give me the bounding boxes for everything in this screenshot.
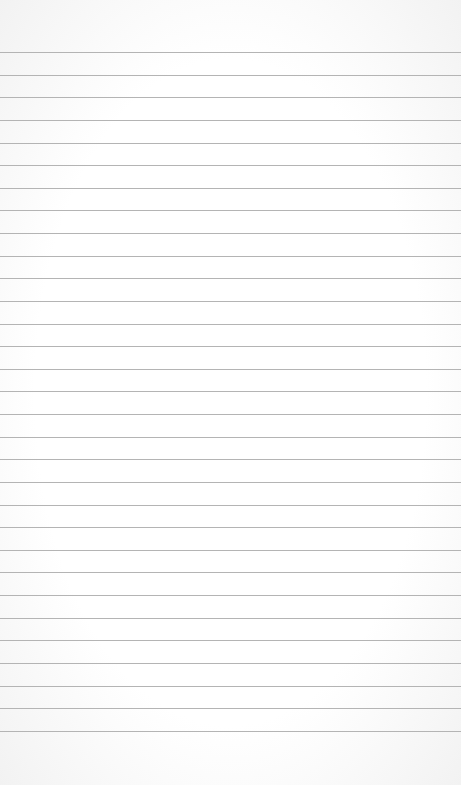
ruled-line [0,482,461,483]
ruled-line [0,663,461,664]
ruled-line [0,640,461,641]
ruled-line [0,188,461,189]
ruled-line [0,505,461,506]
ruled-line [0,75,461,76]
ruled-line [0,550,461,551]
lined-paper-sheet [0,0,461,785]
ruled-line [0,97,461,98]
ruled-line [0,278,461,279]
ruled-line [0,369,461,370]
ruled-line [0,686,461,687]
ruled-line [0,731,461,732]
ruled-line [0,595,461,596]
ruled-line [0,324,461,325]
ruled-line [0,414,461,415]
ruled-line [0,391,461,392]
ruled-line [0,459,461,460]
ruled-line [0,527,461,528]
ruled-line [0,52,461,53]
ruled-line [0,708,461,709]
ruled-line [0,572,461,573]
ruled-line [0,165,461,166]
ruled-line [0,346,461,347]
ruled-line [0,256,461,257]
ruled-line [0,120,461,121]
ruled-line [0,301,461,302]
ruled-line [0,437,461,438]
ruled-line [0,143,461,144]
ruled-line [0,233,461,234]
ruled-line [0,210,461,211]
ruled-line [0,618,461,619]
